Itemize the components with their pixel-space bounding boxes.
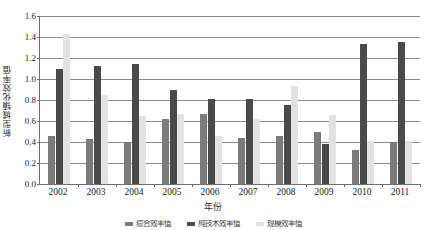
bar <box>329 115 336 184</box>
bar <box>139 116 146 184</box>
bar-group <box>306 16 344 184</box>
x-axis-tick-label: 2005 <box>163 187 182 198</box>
y-axis-tick-mark <box>37 184 40 185</box>
legend-label: 规模效率值 <box>267 220 302 228</box>
chart-legend: 综合效率值纯技术效率值规模效率值 <box>0 220 426 230</box>
bar-group <box>78 16 116 184</box>
bar <box>101 95 108 184</box>
x-axis-tick-label: 2010 <box>353 187 372 198</box>
plot-area <box>39 16 420 185</box>
x-axis-tick-label: 2002 <box>49 187 68 198</box>
legend-swatch <box>256 222 264 226</box>
x-axis-tick-label: 2009 <box>315 187 334 198</box>
x-axis-title: 年份 <box>0 202 426 212</box>
x-axis-tick-labels: 2002200320042005200620072008200920102011 <box>39 187 420 201</box>
bar <box>367 141 374 184</box>
bar-group <box>382 16 420 184</box>
y-axis-tick-labels: 1.61.41.21.00.80.60.40.20.0 <box>14 0 38 230</box>
bar-group <box>154 16 192 184</box>
legend-label: 综合效率值 <box>136 220 171 228</box>
x-axis-tick-label: 2006 <box>201 187 220 198</box>
bar <box>94 66 101 184</box>
bar <box>322 144 329 184</box>
y-axis-tick-label: 0.6 <box>25 117 36 126</box>
y-axis-tick-label: 0.8 <box>25 96 36 105</box>
legend-item: 综合效率值 <box>125 220 171 228</box>
bar <box>124 142 131 184</box>
bar <box>63 34 70 184</box>
x-axis-tick-label: 2007 <box>239 187 258 198</box>
y-axis-tick-label: 1.6 <box>25 12 36 21</box>
chart-container: 新型城镇化效率值 1.61.41.21.00.80.60.40.20.0 200… <box>0 0 426 230</box>
bar-group <box>116 16 154 184</box>
bar <box>314 132 321 185</box>
y-axis-tick-label: 0.0 <box>25 180 36 189</box>
bar <box>48 136 55 184</box>
x-axis-tick-label: 2008 <box>277 187 296 198</box>
legend-swatch <box>187 222 195 226</box>
legend-label: 纯技术效率值 <box>198 220 240 228</box>
y-axis-title-text: 新型城镇化效率值 <box>4 65 13 137</box>
bar <box>405 141 412 184</box>
y-axis-tick-label: 1.4 <box>25 33 36 42</box>
bar <box>200 114 207 184</box>
bar <box>284 105 291 184</box>
y-axis-title: 新型城镇化效率值 <box>1 36 15 166</box>
bar <box>253 119 260 184</box>
x-axis-tick-label: 2003 <box>87 187 106 198</box>
bar-group <box>344 16 382 184</box>
bar <box>276 136 283 184</box>
legend-item: 纯技术效率值 <box>187 220 240 228</box>
y-axis-tick-label: 0.4 <box>25 138 36 147</box>
bar <box>291 86 298 184</box>
legend-item: 规模效率值 <box>256 220 302 228</box>
x-axis-tick-label: 2004 <box>125 187 144 198</box>
bar <box>390 142 397 184</box>
bar <box>208 99 215 184</box>
bar <box>177 114 184 184</box>
y-axis-tick-label: 1.0 <box>25 75 36 84</box>
bar <box>360 44 367 184</box>
bar <box>170 90 177 185</box>
y-axis-tick-label: 0.2 <box>25 159 36 168</box>
bar-group <box>40 16 78 184</box>
x-axis-tick-label: 2011 <box>391 187 410 198</box>
y-axis-tick-label: 1.2 <box>25 54 36 63</box>
bar <box>238 138 245 184</box>
bar <box>162 119 169 184</box>
bar-group <box>230 16 268 184</box>
legend-swatch <box>125 222 133 226</box>
bar-group <box>192 16 230 184</box>
x-axis-tick-mark <box>420 184 421 187</box>
bar-group <box>268 16 306 184</box>
bar <box>246 99 253 184</box>
bar <box>56 69 63 185</box>
bar <box>352 150 359 184</box>
bar <box>398 42 405 184</box>
bar <box>86 139 93 184</box>
bar <box>132 64 139 184</box>
bar <box>215 136 222 184</box>
